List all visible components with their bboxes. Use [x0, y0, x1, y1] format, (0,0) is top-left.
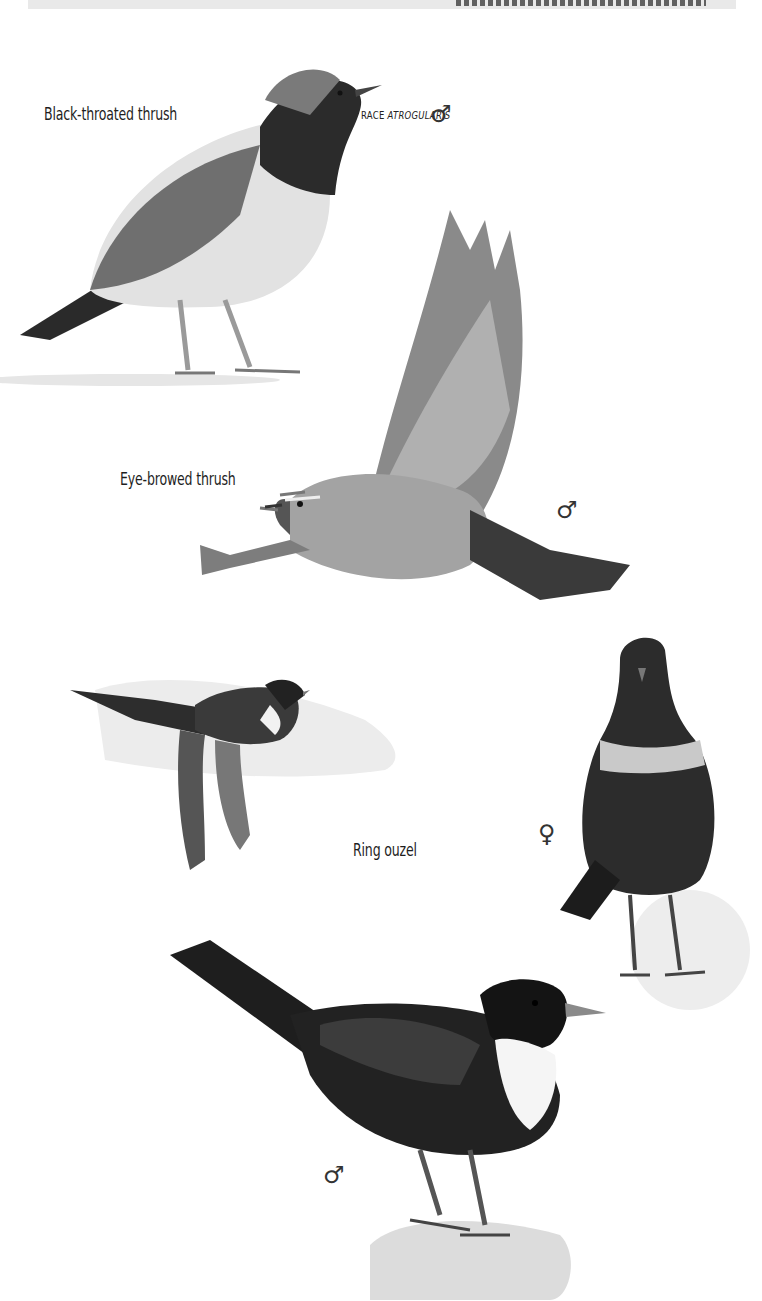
male-symbol: ♂ — [430, 102, 452, 126]
race-prefix: RACE — [361, 110, 385, 121]
female-symbol: ♀ — [538, 822, 556, 846]
eye-browed-thrush-illustration — [190, 210, 640, 620]
male-symbol: ♂ — [556, 498, 578, 522]
species-label-eye-browed-thrush: Eye-browed thrush — [120, 469, 236, 489]
running-head-clipped-text — [456, 0, 706, 6]
ring-ouzel-male-illustration — [170, 935, 620, 1300]
species-label-black-throated-thrush: Black-throated thrush — [44, 104, 177, 124]
running-head — [28, 0, 736, 9]
male-symbol: ♂ — [323, 1163, 345, 1187]
species-label-ring-ouzel: Ring ouzel — [353, 840, 417, 860]
